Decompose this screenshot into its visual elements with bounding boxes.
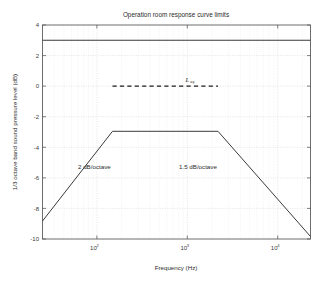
y-tick-label: -8 bbox=[34, 206, 40, 212]
operation-room-response-chart: Operation room response curve limits 1/3… bbox=[0, 0, 328, 281]
chart-figure: Operation room response curve limits 1/3… bbox=[0, 0, 328, 281]
y-tick-label: -4 bbox=[34, 145, 40, 151]
left-slope-annotation: 2 dB/octave bbox=[78, 163, 111, 170]
y-tick-label: -6 bbox=[34, 175, 40, 181]
chart-title: Operation room response curve limits bbox=[123, 11, 229, 19]
right-slope-annotation: 1.5 dB/octave bbox=[179, 163, 217, 170]
leq-symbol: L bbox=[185, 76, 190, 83]
y-tick-label: -2 bbox=[34, 114, 40, 120]
y-tick-label: -10 bbox=[30, 236, 39, 242]
x-axis-label: Frequency (Hz) bbox=[155, 264, 198, 271]
y-axis-label: 1/3 octave band sound pressure level (dB… bbox=[11, 74, 18, 190]
